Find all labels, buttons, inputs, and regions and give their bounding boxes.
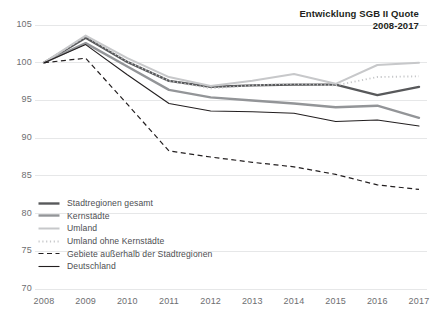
x-tick-label: 2016 bbox=[360, 296, 394, 306]
x-tick-label: 2015 bbox=[319, 296, 353, 306]
legend-swatch-icon bbox=[38, 223, 60, 234]
chart-title-line1: Entwicklung SGB II Quote bbox=[299, 8, 419, 19]
legend-label: Umland ohne Kernstädte bbox=[67, 236, 164, 246]
chart-title-line2: 2008-2017 bbox=[299, 20, 419, 32]
legend-label: Kernstädte bbox=[67, 211, 110, 221]
x-tick-label: 2013 bbox=[235, 296, 269, 306]
x-tick-label: 2008 bbox=[27, 296, 61, 306]
legend-swatch-icon bbox=[38, 248, 60, 259]
y-tick-label: 75 bbox=[8, 245, 32, 255]
legend-swatch-icon bbox=[38, 198, 60, 209]
x-tick-label: 2017 bbox=[402, 296, 434, 306]
legend-swatch-icon bbox=[38, 210, 60, 221]
legend-label: Gebiete außerhalb der Stadtregionen bbox=[67, 249, 212, 259]
y-tick-label: 90 bbox=[8, 132, 32, 142]
data-series-group bbox=[44, 36, 419, 190]
series-line bbox=[44, 38, 419, 95]
legend-item[interactable]: Umland ohne Kernstädte bbox=[38, 235, 212, 248]
series-line bbox=[44, 36, 419, 87]
legend-item[interactable]: Kernstädte bbox=[38, 210, 212, 223]
legend-swatch-icon bbox=[38, 261, 60, 272]
legend-label: Stadtregionen gesamt bbox=[67, 198, 153, 208]
y-tick-label: 95 bbox=[8, 94, 32, 104]
y-tick-label: 80 bbox=[8, 208, 32, 218]
y-tick-label: 70 bbox=[8, 283, 32, 293]
legend-label: Umland bbox=[67, 223, 97, 233]
legend-item[interactable]: Stadtregionen gesamt bbox=[38, 197, 212, 210]
legend-item[interactable]: Umland bbox=[38, 222, 212, 235]
y-tick-label: 105 bbox=[8, 19, 32, 29]
series-line bbox=[44, 58, 419, 189]
y-tick-label: 85 bbox=[8, 170, 32, 180]
legend-item[interactable]: Deutschland bbox=[38, 260, 212, 273]
x-tick-label: 2009 bbox=[69, 296, 103, 306]
x-tick-label: 2010 bbox=[110, 296, 144, 306]
y-tick-label: 100 bbox=[8, 57, 32, 67]
x-tick-label: 2011 bbox=[152, 296, 186, 306]
legend-label: Deutschland bbox=[67, 261, 116, 271]
legend-swatch-icon bbox=[38, 236, 60, 247]
legend-item[interactable]: Gebiete außerhalb der Stadtregionen bbox=[38, 247, 212, 260]
chart-legend: Stadtregionen gesamtKernstädteUmlandUmla… bbox=[38, 197, 212, 273]
chart-title: Entwicklung SGB II Quote 2008-2017 bbox=[299, 8, 419, 32]
x-tick-label: 2012 bbox=[194, 296, 228, 306]
x-tick-label: 2014 bbox=[277, 296, 311, 306]
